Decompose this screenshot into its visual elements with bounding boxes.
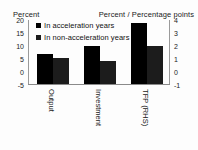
bar (100, 61, 116, 84)
legend-item-label: In acceleration years (44, 21, 114, 30)
bar (84, 46, 100, 84)
right-axis-title: Percent / Percentage points (99, 10, 194, 19)
category-label: TFP (RHS) (141, 89, 150, 126)
left-axis-tick-label: 20 (16, 17, 24, 24)
right-axis-tick-label: 1 (174, 56, 178, 63)
right-axis-tick-label: 2 (174, 43, 178, 50)
legend-item: In acceleration years (36, 20, 129, 31)
bar (53, 58, 69, 84)
left-axis-tick-label: 15 (16, 30, 24, 37)
bar (147, 46, 163, 84)
legend-item: In non-acceleration years (36, 32, 129, 43)
left-axis-tick-label: -5 (18, 82, 24, 89)
bar (131, 23, 147, 84)
right-axis-tick-label: 0 (174, 69, 178, 76)
left-axis-tick-label: 0 (20, 69, 24, 76)
legend-item-label: In non-acceleration years (44, 33, 129, 42)
category-label: Investment (94, 89, 103, 126)
legend-swatch-icon (36, 23, 41, 28)
legend-swatch-icon (36, 35, 41, 40)
left-axis-tick-label: 10 (16, 43, 24, 50)
chart-legend: In acceleration years In non-acceleratio… (36, 20, 129, 44)
right-axis-tick-label: 4 (174, 17, 178, 24)
right-axis-tick-label: -1 (174, 82, 180, 89)
category-label: Output (47, 89, 56, 112)
bar-chart: Percent Percent / Percentage points 2015… (0, 0, 198, 150)
left-axis-tick-label: 5 (20, 56, 24, 63)
bar (37, 54, 53, 84)
right-axis-tick-label: 3 (174, 30, 178, 37)
